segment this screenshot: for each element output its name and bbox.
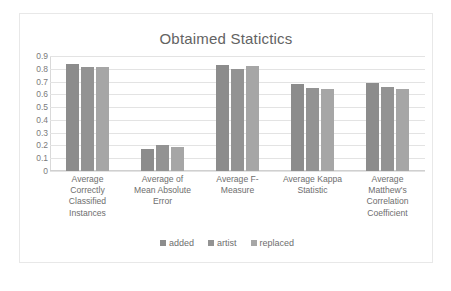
bar-replaced[interactable] xyxy=(246,66,259,171)
legend-swatch-icon xyxy=(160,240,166,246)
category-label-line: Mean Absolute xyxy=(125,185,200,196)
bar-artist[interactable] xyxy=(381,87,394,171)
category-label-line: Classified xyxy=(50,196,125,207)
legend-swatch-icon xyxy=(208,240,214,246)
legend-label: artist xyxy=(217,238,237,248)
bar-replaced[interactable] xyxy=(321,89,334,171)
bar-replaced[interactable] xyxy=(96,67,109,171)
bar-added[interactable] xyxy=(291,84,304,171)
category-label-line: Error xyxy=(125,196,200,207)
y-axis-tick-label: 0.7 xyxy=(36,78,48,86)
bar-added[interactable] xyxy=(216,65,229,171)
category-label-line: Average xyxy=(350,174,425,185)
category-label-line: Average of xyxy=(125,174,200,185)
y-axis-tick-labels: 0.90.80.70.60.50.40.30.20.10 xyxy=(22,56,48,171)
y-axis-tick-label: 0.6 xyxy=(36,90,48,98)
bar-group xyxy=(50,56,125,171)
bar-added[interactable] xyxy=(141,149,154,171)
plot-wrapper: 0.90.80.70.60.50.40.30.20.10 AverageCorr… xyxy=(20,14,434,264)
x-axis-category-label: Average KappaStatistic xyxy=(275,174,350,196)
y-axis-tick-label: 0 xyxy=(43,167,48,175)
legend-item-added[interactable]: added xyxy=(160,238,194,248)
category-label-line: Matthew's xyxy=(350,185,425,196)
bar-replaced[interactable] xyxy=(171,147,184,171)
bar-added[interactable] xyxy=(366,83,379,171)
legend-label: added xyxy=(169,238,194,248)
y-axis-tick-label: 0.2 xyxy=(36,141,48,149)
x-axis-category-label: AverageMatthew'sCorrelationCoefficient xyxy=(350,174,425,219)
y-axis-tick-label: 0.1 xyxy=(36,154,48,162)
y-axis-tick-label: 0.3 xyxy=(36,129,48,137)
gridline xyxy=(50,171,425,172)
x-axis-category-labels: AverageCorrectlyClassifiedInstancesAvera… xyxy=(50,174,425,236)
bar-group xyxy=(200,56,275,171)
category-label-line: Coefficient xyxy=(350,208,425,219)
x-axis-category-label: Average F-Measure xyxy=(200,174,275,196)
legend-label: replaced xyxy=(260,238,295,248)
bar-artist[interactable] xyxy=(231,69,244,171)
bar-artist[interactable] xyxy=(306,88,319,171)
category-label-line: Average xyxy=(50,174,125,185)
category-label-line: Measure xyxy=(200,185,275,196)
y-axis-tick-label: 0.9 xyxy=(36,52,48,60)
bar-group xyxy=(350,56,425,171)
legend-item-replaced[interactable]: replaced xyxy=(251,238,295,248)
bar-artist[interactable] xyxy=(81,67,94,171)
y-axis-tick-label: 0.8 xyxy=(36,65,48,73)
chart-legend: addedartistreplaced xyxy=(20,238,434,248)
category-label-line: Average Kappa xyxy=(275,174,350,185)
category-label-line: Instances xyxy=(50,208,125,219)
bar-group xyxy=(275,56,350,171)
x-axis-category-label: AverageCorrectlyClassifiedInstances xyxy=(50,174,125,219)
category-label-line: Average F- xyxy=(200,174,275,185)
plot-area xyxy=(50,56,425,171)
bar-replaced[interactable] xyxy=(396,89,409,171)
category-label-line: Correctly xyxy=(50,185,125,196)
category-label-line: Statistic xyxy=(275,185,350,196)
y-axis-tick-label: 0.4 xyxy=(36,116,48,124)
bar-artist[interactable] xyxy=(156,145,169,171)
legend-swatch-icon xyxy=(251,240,257,246)
chart-container: Obtaimed Statictics 0.90.80.70.60.50.40.… xyxy=(19,13,433,263)
legend-item-artist[interactable]: artist xyxy=(208,238,237,248)
bar-group xyxy=(125,56,200,171)
x-axis-category-label: Average ofMean AbsoluteError xyxy=(125,174,200,208)
category-label-line: Correlation xyxy=(350,196,425,207)
y-axis-tick-label: 0.5 xyxy=(36,103,48,111)
bar-added[interactable] xyxy=(66,64,79,171)
